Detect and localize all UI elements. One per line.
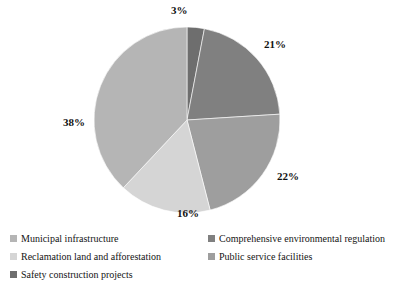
pie-label-reclamation-land-and-afforestation: 16% bbox=[177, 207, 199, 219]
legend-item[interactable]: Public service facilities bbox=[208, 251, 312, 262]
pie-chart-area: 3%21%22%16%38% bbox=[0, 0, 403, 228]
legend-swatch-icon bbox=[10, 235, 17, 242]
pie-chart-svg bbox=[0, 0, 403, 228]
legend-item-label: Comprehensive environmental regulation bbox=[219, 233, 385, 244]
pie-label-municipal-infrastructure: 38% bbox=[63, 116, 85, 128]
pie-label-safety-construction-projects: 3% bbox=[171, 4, 188, 16]
legend-item[interactable]: Comprehensive environmental regulation bbox=[208, 233, 385, 244]
legend-item[interactable]: Reclamation land and afforestation bbox=[10, 251, 161, 262]
legend-swatch-icon bbox=[10, 253, 17, 260]
legend-item-label: Safety construction projects bbox=[21, 269, 133, 280]
chart-legend: Municipal infrastructureComprehensive en… bbox=[0, 231, 403, 293]
legend-item-label: Municipal infrastructure bbox=[21, 233, 118, 244]
legend-swatch-icon bbox=[10, 271, 17, 278]
pie-slice-group bbox=[94, 27, 280, 213]
legend-swatch-icon bbox=[208, 235, 215, 242]
pie-label-public-service-facilities: 22% bbox=[277, 170, 299, 182]
legend-item[interactable]: Safety construction projects bbox=[10, 269, 133, 280]
legend-item-label: Reclamation land and afforestation bbox=[21, 251, 161, 262]
legend-item[interactable]: Municipal infrastructure bbox=[10, 233, 118, 244]
legend-item-label: Public service facilities bbox=[219, 251, 312, 262]
legend-swatch-icon bbox=[208, 253, 215, 260]
pie-label-comprehensive-environmental-regulation: 21% bbox=[264, 38, 286, 50]
